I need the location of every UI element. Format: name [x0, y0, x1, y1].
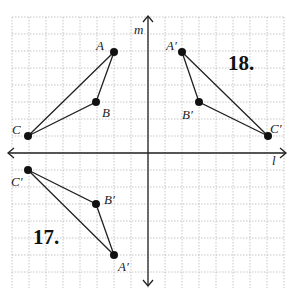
- label-axis-m: m: [134, 22, 143, 37]
- point-b-prime-18: [195, 98, 203, 106]
- problem-number-18: 18.: [228, 51, 254, 75]
- label-a-prime-17: A′: [117, 259, 129, 274]
- point-c: [24, 132, 32, 140]
- coordinate-grid-figure: A B C A′ B′ C′ C′ B′ A′ l m 18. 17.: [0, 0, 294, 288]
- label-c: C: [12, 122, 21, 137]
- point-b: [92, 98, 100, 106]
- label-c-prime-18: C′: [270, 121, 282, 136]
- point-c-prime-17: [24, 166, 32, 174]
- label-b-prime-17: B′: [104, 192, 115, 207]
- label-axis-l: l: [272, 153, 276, 168]
- label-c-prime-17: C′: [11, 174, 23, 189]
- label-a: A: [95, 38, 104, 53]
- label-a-prime-18: A′: [165, 38, 177, 53]
- label-b: B: [102, 105, 110, 120]
- problem-number-17: 17.: [33, 225, 59, 249]
- point-a-prime-17: [110, 251, 118, 259]
- coordinate-plane: A B C A′ B′ C′ C′ B′ A′ l m 18. 17.: [0, 0, 294, 288]
- label-b-prime-18: B′: [182, 107, 193, 122]
- point-a: [110, 48, 118, 56]
- triangle-18-image: [182, 52, 268, 136]
- point-b-prime-17: [92, 200, 100, 208]
- point-a-prime-18: [178, 48, 186, 56]
- triangle-abc: [28, 52, 114, 136]
